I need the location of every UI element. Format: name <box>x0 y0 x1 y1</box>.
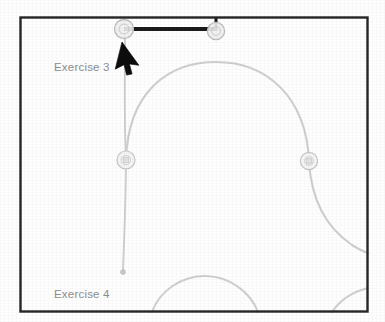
label-exercise-4: Exercise 4 <box>54 288 110 300</box>
node-mid-right[interactable] <box>300 152 317 169</box>
node-top-left[interactable] <box>115 20 134 39</box>
edge-arc-bottom[interactable] <box>152 276 258 312</box>
faint-edge-group <box>123 38 368 312</box>
selected-edge-group <box>124 17 217 30</box>
diagram-vector-layer <box>0 0 385 322</box>
mouse-pointer-icon <box>115 42 144 77</box>
node-mid-left[interactable] <box>117 151 135 169</box>
diagram-canvas: Exercise 3 Exercise 4 <box>0 0 385 322</box>
node-top-right[interactable] <box>207 22 224 39</box>
edge-arc-bottom-corner[interactable] <box>332 288 368 312</box>
label-exercise-3: Exercise 3 <box>54 61 110 73</box>
edge-arc-tail-right[interactable] <box>309 161 368 253</box>
edge-arc-main[interactable] <box>126 62 309 161</box>
node-line-end[interactable] <box>121 270 126 275</box>
